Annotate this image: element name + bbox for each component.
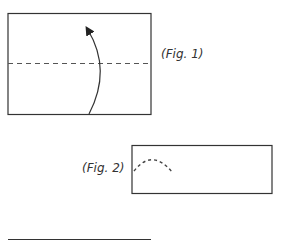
figure-1 [8,14,151,115]
fig2-label: (Fig. 2) [82,161,124,175]
fig1-label: (Fig. 1) [161,47,203,61]
origami-diagram [0,0,285,241]
fig1-fold-arrow-icon [88,30,100,114]
figure-2 [132,146,272,194]
fig2-dashed-arc-icon [134,160,172,172]
fig2-paper [132,146,272,194]
